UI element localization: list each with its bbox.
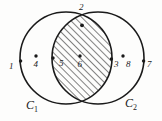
point-label-3: 3 bbox=[114, 60, 119, 69]
point-label-5: 5 bbox=[59, 59, 64, 68]
point-marker-2 bbox=[80, 23, 84, 27]
point-marker-3 bbox=[110, 57, 113, 60]
point-label-6: 6 bbox=[78, 60, 83, 69]
point-marker-4 bbox=[34, 54, 37, 57]
set-label-c2: C2 bbox=[125, 97, 137, 112]
point-marker-7 bbox=[142, 59, 145, 62]
point-marker-8 bbox=[121, 54, 124, 57]
set-label-c1-letter: C bbox=[26, 98, 34, 112]
point-marker-6 bbox=[78, 54, 81, 57]
set-label-c2-letter: C bbox=[125, 96, 133, 110]
set-label-c1-subscript: 1 bbox=[34, 105, 38, 114]
point-label-4: 4 bbox=[34, 60, 39, 69]
point-label-7: 7 bbox=[147, 60, 152, 69]
point-label-2: 2 bbox=[79, 3, 84, 12]
point-marker-1 bbox=[19, 59, 22, 62]
point-label-1: 1 bbox=[9, 62, 14, 71]
point-label-8: 8 bbox=[126, 60, 131, 69]
set-label-c2-subscript: 2 bbox=[133, 103, 137, 112]
set-label-c1: C1 bbox=[26, 99, 38, 114]
venn-diagram-figure: 1 2 3 4 5 6 7 8 C1 C2 bbox=[0, 0, 162, 121]
point-marker-5 bbox=[51, 56, 54, 59]
